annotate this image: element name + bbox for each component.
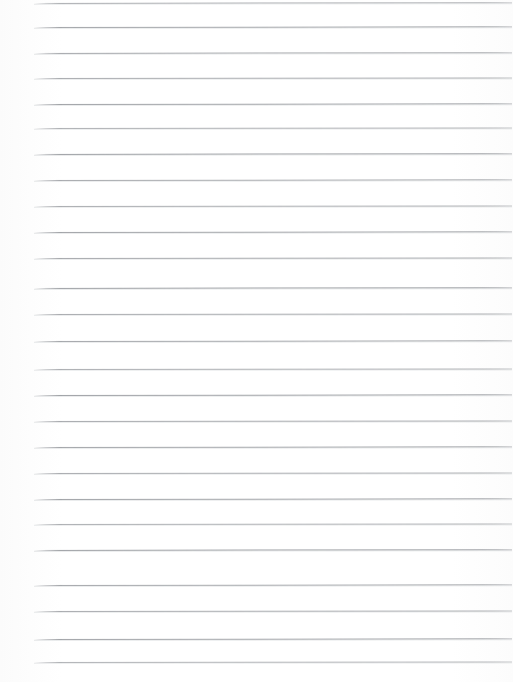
ruled-line-left-fade <box>34 288 60 289</box>
ruled-line <box>34 610 512 612</box>
ruled-line-right-fade <box>482 446 512 447</box>
ruled-line <box>34 2 512 4</box>
ruled-line <box>34 369 512 370</box>
ruled-line <box>34 472 512 474</box>
ruled-line-right-fade <box>482 153 512 154</box>
ruled-line-left-fade <box>34 53 60 54</box>
ruled-line-right-fade <box>482 313 512 314</box>
ruled-line-ghost <box>34 525 512 526</box>
ruled-line-ghost <box>34 639 512 641</box>
ruled-line-ghost <box>34 370 512 371</box>
ruled-line-left-fade <box>34 180 60 181</box>
ruled-line-left-fade <box>34 3 60 4</box>
ruled-line-right-fade <box>482 472 512 473</box>
ruled-line-left-fade <box>34 154 60 155</box>
ruled-line <box>34 153 512 155</box>
ruled-line-left-fade <box>34 639 60 640</box>
ruled-line-right-fade <box>482 231 512 232</box>
ruled-line-left-fade <box>34 341 60 342</box>
ruled-line-right-fade <box>482 206 512 207</box>
ruled-line-ghost <box>34 314 512 316</box>
ruled-line-left-fade <box>34 662 60 663</box>
ruled-line-right-fade <box>482 340 512 341</box>
ruled-line-ghost <box>34 611 512 613</box>
ruled-line-right-fade <box>482 420 512 421</box>
ruled-line-right-fade <box>482 638 512 639</box>
ruled-line <box>34 257 512 259</box>
ruled-line-right-fade <box>482 257 512 258</box>
ruled-line-left-fade <box>34 447 60 448</box>
ruled-line-right-fade <box>482 2 512 3</box>
ruled-line-ghost <box>34 232 512 234</box>
ruled-line-ghost <box>34 104 512 106</box>
ruled-line-ghost <box>34 207 512 208</box>
ruled-line-left-fade <box>34 550 60 551</box>
ruled-line <box>34 498 512 500</box>
ruled-line <box>34 103 512 105</box>
ruled-line-ghost <box>34 395 512 397</box>
ruled-line <box>34 127 512 129</box>
ruled-line <box>34 179 512 181</box>
ruled-line <box>34 313 512 315</box>
ruled-line-ghost <box>34 288 512 290</box>
ruled-line-right-fade <box>482 103 512 104</box>
ruled-line-right-fade <box>482 584 512 585</box>
ruled-line <box>34 661 512 663</box>
ruled-line-left-fade <box>34 206 60 207</box>
ruled-line <box>34 638 512 640</box>
ruled-line-right-fade <box>482 394 512 395</box>
ruled-line-ghost <box>34 27 512 29</box>
ruled-line <box>34 584 512 586</box>
ruled-line-ghost <box>34 473 512 475</box>
ruled-line-left-fade <box>34 78 60 79</box>
ruled-line <box>34 77 512 79</box>
ruled-line-ghost <box>34 499 512 501</box>
ruled-line-right-fade <box>482 77 512 78</box>
ruled-line <box>34 340 512 342</box>
ruled-line <box>34 287 512 289</box>
ruled-line <box>34 52 512 54</box>
ruled-line-ghost <box>34 258 512 260</box>
ruled-line-ghost <box>34 78 512 80</box>
ruled-line-ghost <box>34 128 512 130</box>
ruled-line-right-fade <box>482 26 512 27</box>
ruled-line <box>34 420 512 422</box>
ruled-line-right-fade <box>482 127 512 128</box>
ruled-line-right-fade <box>482 524 512 525</box>
ruled-line-left-fade <box>34 258 60 259</box>
ruled-line-left-fade <box>34 314 60 315</box>
ruled-line-left-fade <box>34 473 60 474</box>
ruled-line <box>34 446 512 448</box>
ruled-line-ghost <box>34 585 512 587</box>
scanned-page <box>0 0 513 682</box>
ruled-line-right-fade <box>482 287 512 288</box>
ruled-line-ghost <box>34 662 512 664</box>
ruled-line-right-fade <box>482 549 512 550</box>
ruled-line-left-fade <box>34 27 60 28</box>
ruled-line-left-fade <box>34 524 60 525</box>
ruled-line <box>34 26 512 28</box>
ruled-line-left-fade <box>34 369 60 370</box>
ruled-line-right-fade <box>482 661 512 662</box>
ruled-line-right-fade <box>482 179 512 180</box>
ruled-line-right-fade <box>482 52 512 53</box>
ruled-line-ghost <box>34 154 512 156</box>
ruled-line <box>34 394 512 396</box>
ruled-line <box>34 549 512 551</box>
ruled-line <box>34 231 512 233</box>
ruled-line-right-fade <box>482 610 512 611</box>
ruled-line-left-fade <box>34 611 60 612</box>
ruled-line-left-fade <box>34 499 60 500</box>
ruled-line-left-fade <box>34 232 60 233</box>
ruled-line-ghost <box>34 180 512 182</box>
ruled-line-right-fade <box>482 369 512 370</box>
ruled-line-ghost <box>34 53 512 55</box>
ruled-line-left-fade <box>34 128 60 129</box>
ruled-line-ghost <box>34 341 512 343</box>
ruled-line-ghost <box>34 3 512 5</box>
ruled-line <box>34 524 512 525</box>
ruled-line-left-fade <box>34 585 60 586</box>
ruled-line-left-fade <box>34 104 60 105</box>
ruled-line-ghost <box>34 550 512 552</box>
ruled-line-ghost <box>34 447 512 449</box>
